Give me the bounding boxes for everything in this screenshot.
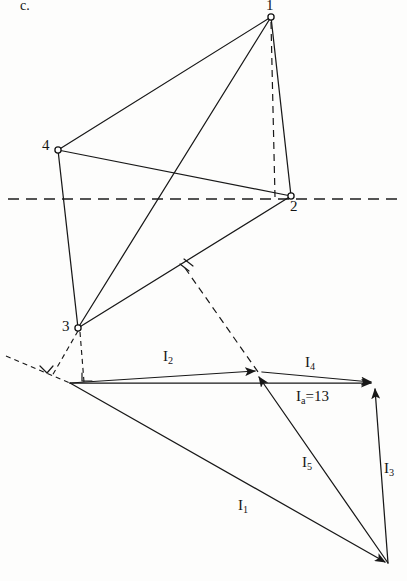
vertex-node-4 (55, 147, 61, 153)
vector-I4 (262, 372, 371, 382)
edge-3-2 (78, 196, 291, 328)
vector-label-I3: I3 (384, 461, 394, 478)
vertex-node-3 (75, 325, 81, 331)
vector-label-I4-sub: 4 (310, 361, 315, 372)
tetrahedron-edges (58, 17, 291, 328)
vertex-node-1 (268, 14, 274, 20)
section-label: c. (20, 0, 30, 13)
vector-label-I1: I1 (238, 498, 248, 515)
vector-polygon (70, 371, 388, 563)
diagram-canvas: c. 1 2 3 4 I2 I4 Ia=13 I3 I5 I1 (0, 0, 407, 581)
edge-4-3 (58, 150, 78, 328)
vector-I2 (70, 371, 255, 383)
vector-label-Ia-resultant: Ia=13 (296, 389, 329, 406)
vector-label-I5: I5 (302, 455, 312, 472)
vector-label-Ia-value: =13 (306, 388, 329, 404)
vector-label-I5-sub: 5 (307, 461, 312, 472)
perpendicular-drop-line (185, 268, 258, 372)
technical-drawing (0, 0, 407, 581)
edge-4-2 (58, 150, 291, 196)
vertex-label-3: 3 (62, 319, 70, 334)
right-angle-mark-left (40, 366, 53, 373)
vector-label-I4: I4 (305, 355, 315, 372)
vector-label-I2-sub: 2 (168, 355, 173, 366)
vector-label-I3-sub: 3 (389, 467, 394, 478)
vector-label-I2: I2 (163, 349, 173, 366)
vertex-label-4: 4 (42, 138, 50, 153)
edge-1-4 (58, 17, 271, 150)
vector-I1 (70, 383, 385, 562)
vertex-label-2: 2 (290, 199, 298, 214)
right-angle-mark-upper (180, 259, 193, 271)
vertex-label-1: 1 (266, 0, 274, 13)
baseline-extension-left (6, 356, 70, 383)
projector-3-to-origin (52, 331, 78, 376)
vector-label-I1-sub: 1 (243, 504, 248, 515)
